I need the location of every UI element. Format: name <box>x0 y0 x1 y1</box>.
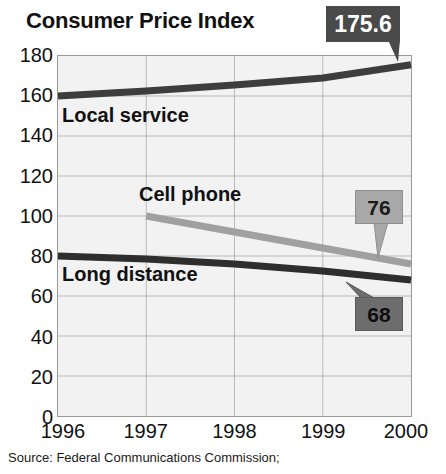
x-axis-tick-label: 1998 <box>212 420 257 443</box>
series-label-long-distance: Long distance <box>62 263 198 286</box>
series-label-local-service: Local service <box>62 104 189 127</box>
y-axis-tick-label: 60 <box>1 285 53 308</box>
callout-long-distance-value: 68 <box>355 297 403 331</box>
y-axis-tick-label: 180 <box>1 44 53 67</box>
y-axis-tick-label: 80 <box>1 245 53 268</box>
series-label-cell-phone: Cell phone <box>139 183 241 206</box>
y-axis-tick-label: 40 <box>1 325 53 348</box>
x-axis-tick-label: 1997 <box>124 420 169 443</box>
y-axis-tick-label: 20 <box>1 365 53 388</box>
callout-cell-phone-value: 76 <box>355 190 403 224</box>
y-axis-tick-label: 140 <box>1 124 53 147</box>
x-axis: 19961997199819992000 <box>57 420 412 448</box>
chart-title: Consumer Price Index <box>26 8 254 34</box>
y-axis-tick-label: 120 <box>1 164 53 187</box>
y-axis-tick-label: 100 <box>1 204 53 227</box>
source-note: Source: Federal Communications Commissio… <box>8 450 280 465</box>
consumer-price-index-chart: Consumer Price Index 0204060801001201401… <box>0 0 446 474</box>
x-axis-tick-label: 2000 <box>384 420 429 443</box>
y-axis-tick-label: 160 <box>1 84 53 107</box>
x-axis-tick-label: 1999 <box>301 420 346 443</box>
x-axis-tick-label: 1996 <box>41 420 86 443</box>
y-axis: 020406080100120140160180 <box>0 55 53 417</box>
callout-local-service-value: 175.6 <box>326 6 400 42</box>
